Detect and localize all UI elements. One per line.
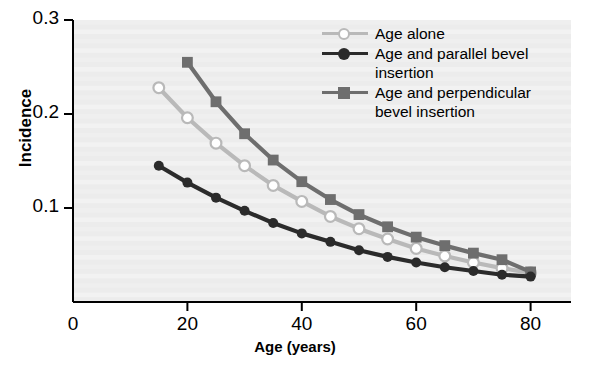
legend-item: Age and perpendicular bevel insertion bbox=[322, 83, 531, 121]
legend-item-label: Age alone bbox=[375, 24, 445, 43]
incidence-vs-age-chart: 0.1 0.2 0.3 0 20 40 60 80 Incidence Age … bbox=[0, 0, 590, 366]
filled-circle-legend-marker-icon bbox=[322, 44, 368, 63]
x-axis-tick-label: 60 bbox=[386, 313, 446, 335]
legend-item: Age alone bbox=[322, 24, 531, 43]
legend-item-label: Age and perpendicular bevel insertion bbox=[375, 83, 531, 121]
x-axis-tick-label: 0 bbox=[43, 313, 103, 335]
open-circle-legend-marker-icon bbox=[322, 24, 368, 43]
x-axis-tick-label: 40 bbox=[272, 313, 332, 335]
y-axis-tick-label: 0.1 bbox=[3, 195, 59, 217]
x-axis-tick-label: 80 bbox=[501, 313, 561, 335]
x-axis-tick-label: 20 bbox=[157, 313, 217, 335]
y-axis-title: Incidence bbox=[16, 58, 36, 198]
filled-square-legend-marker-icon bbox=[322, 83, 368, 102]
chart-legend: Age aloneAge and parallel bevel insertio… bbox=[322, 24, 531, 122]
y-axis-tick-label: 0.3 bbox=[3, 7, 59, 29]
legend-item-label: Age and parallel bevel insertion bbox=[375, 44, 528, 82]
x-axis-title: Age (years) bbox=[0, 338, 590, 355]
legend-item: Age and parallel bevel insertion bbox=[322, 44, 531, 82]
